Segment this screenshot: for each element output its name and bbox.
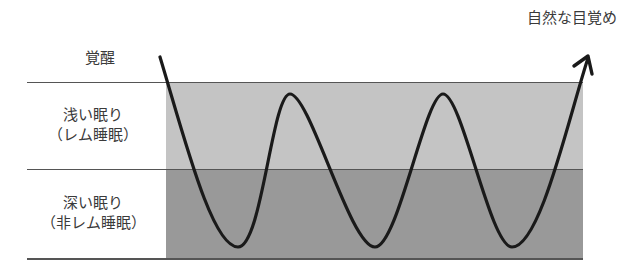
sleep-depth-curve xyxy=(0,0,637,276)
